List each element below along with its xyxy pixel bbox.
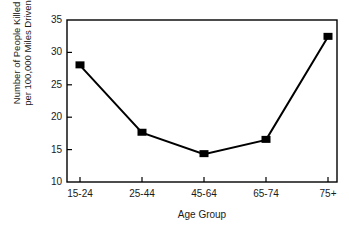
- x-axis-ticks: [80, 177, 328, 182]
- plot-frame: [67, 20, 337, 182]
- data-point-marker: [76, 61, 85, 68]
- x-tick-label: 25-44: [112, 188, 172, 200]
- series-line: [80, 37, 328, 154]
- x-axis-tick-labels: 15-24 25-44 45-64 65-74 75+: [0, 188, 349, 202]
- x-tick-label: 75+: [298, 188, 349, 200]
- x-tick-label: 45-64: [174, 188, 234, 200]
- data-point-marker: [324, 33, 333, 40]
- data-point-marker: [138, 129, 147, 136]
- x-tick-label: 65-74: [236, 188, 296, 200]
- y-axis-ticks: [67, 52, 72, 149]
- x-axis-title: Age Group: [67, 209, 337, 220]
- data-point-marker: [200, 150, 209, 157]
- x-tick-label: 15-24: [50, 188, 110, 200]
- data-point-marker: [262, 136, 271, 143]
- chart-figure: Number of People Killed per 100,000 Mile…: [0, 0, 349, 236]
